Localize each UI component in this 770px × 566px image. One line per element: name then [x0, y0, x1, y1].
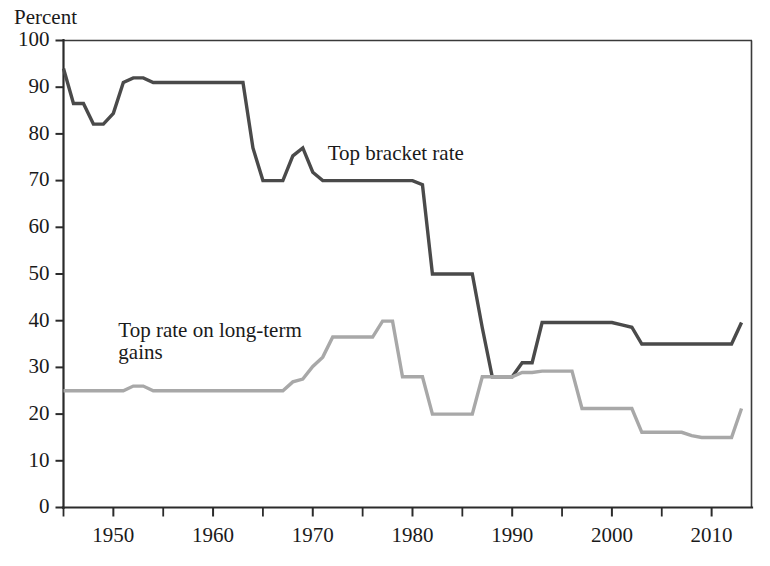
chart-canvas: 0102030405060708090100 19501960197019801… [0, 0, 770, 566]
y-tick-label-30: 30 [29, 354, 50, 378]
series-label-long-term-gains-line2: gains [118, 340, 162, 364]
series-label-long-term-gains-line1: Top rate on long-term [118, 318, 301, 342]
x-tick-label-1950: 1950 [92, 523, 134, 547]
y-tick-label-50: 50 [29, 261, 50, 285]
series-label-top-bracket-rate: Top bracket rate [328, 141, 464, 165]
x-tick-label-1970: 1970 [292, 523, 334, 547]
y-tick-label-0: 0 [39, 494, 50, 518]
x-tick-label-1980: 1980 [391, 523, 433, 547]
y-tick-label-20: 20 [29, 401, 50, 425]
x-tick-label-1960: 1960 [192, 523, 234, 547]
y-tick-label-10: 10 [29, 448, 50, 472]
series-paths [64, 69, 742, 438]
y-tick-label-90: 90 [29, 74, 50, 98]
y-tick-label-100: 100 [18, 27, 50, 51]
x-tick-label-2010: 2010 [691, 523, 733, 547]
x-axis-ticks: 1950196019701980199020002010 [64, 508, 733, 547]
y-axis-ticks: 0102030405060708090100 [18, 27, 64, 518]
y-tick-label-70: 70 [29, 167, 50, 191]
y-tick-label-60: 60 [29, 214, 50, 238]
y-tick-label-40: 40 [29, 308, 50, 332]
y-tick-label-80: 80 [29, 121, 50, 145]
x-tick-label-2000: 2000 [591, 523, 633, 547]
y-axis-title: Percent [14, 5, 77, 29]
plot-frame [63, 40, 752, 508]
tax-rate-line-chart: 0102030405060708090100 19501960197019801… [0, 0, 770, 566]
x-tick-label-1990: 1990 [491, 523, 533, 547]
